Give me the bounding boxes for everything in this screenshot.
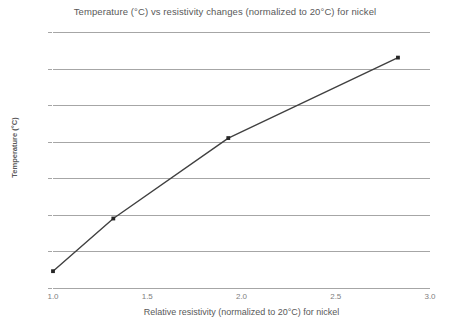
chart-container: Temperature (°C) vs resistivity changes … <box>0 0 450 328</box>
y-tick-mark <box>48 178 52 179</box>
x-tick-label: 2.5 <box>330 292 341 301</box>
data-point-marker <box>396 56 400 60</box>
data-point-marker <box>111 217 115 221</box>
x-tick-label: 3.0 <box>424 292 435 301</box>
y-axis-title: Temperature (°C) <box>10 93 19 203</box>
x-tick-label: 1.0 <box>47 292 58 301</box>
x-tick-label: 2.0 <box>236 292 247 301</box>
y-tick-mark <box>48 32 52 33</box>
series-markers-nickel <box>51 56 400 273</box>
x-axis-title: Relative resistivity (normalized to 20°C… <box>53 307 430 317</box>
y-tick-mark <box>48 69 52 70</box>
series-line-nickel <box>53 58 398 272</box>
plot-area <box>53 32 430 288</box>
y-tick-mark <box>48 142 52 143</box>
y-tick-mark <box>48 251 52 252</box>
y-tick-mark <box>48 215 52 216</box>
chart-title: Temperature (°C) vs resistivity changes … <box>0 6 450 17</box>
data-point-marker <box>51 269 55 273</box>
gridline <box>53 288 430 289</box>
data-point-marker <box>226 136 230 140</box>
x-tick-label: 1.5 <box>142 292 153 301</box>
series-nickel <box>53 32 430 288</box>
y-tick-mark <box>48 105 52 106</box>
y-tick-mark <box>48 288 52 289</box>
